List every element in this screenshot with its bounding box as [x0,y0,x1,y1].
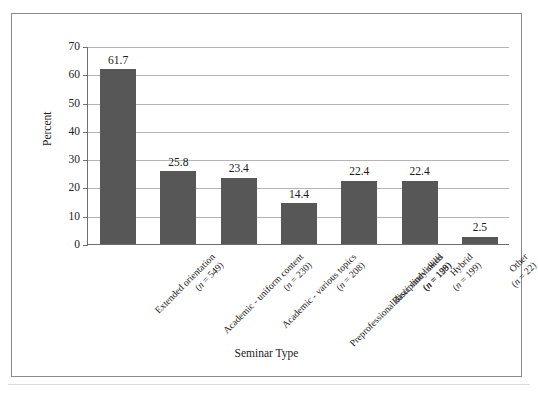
x-axis-category-label: Other(n = 22) [500,251,538,290]
y-axis-tick-label: 60 [69,70,81,82]
bar-value-label: 23.4 [229,163,249,175]
x-axis-category-label: Basic study skills(n = 199) [390,251,455,316]
y-axis-tick-label: 10 [69,211,81,223]
bar-value-label: 61.7 [108,55,128,67]
bar-value-label: 14.4 [289,189,309,201]
y-axis-tick-label: 30 [69,154,81,166]
bar-value-label: 22.4 [410,166,430,178]
figure-frame: Percent 010203040506070 61.725.823.414.4… [11,13,522,377]
bar[interactable]: 2.5 [462,237,498,244]
gridline [88,160,509,161]
y-axis-tick-label: 0 [74,239,80,251]
scan-artifact-line [8,384,530,385]
y-axis-tick-label: 40 [69,126,81,138]
bar[interactable]: 23.4 [221,178,257,244]
bar-value-label: 22.4 [349,166,369,178]
y-axis-tick [83,47,88,48]
y-axis-tick [83,217,88,218]
y-axis-tick [83,104,88,105]
y-axis-tick [83,160,88,161]
bar-value-label: 25.8 [168,157,188,169]
bar[interactable]: 14.4 [281,203,317,244]
y-axis-tick-label: 50 [69,98,81,110]
gridline [88,47,509,48]
bar[interactable]: 25.8 [160,171,196,244]
gridline [88,132,509,133]
x-axis-category-label: Extended orientation(n = 549) [153,251,227,325]
gridline [88,104,509,105]
bar[interactable]: 22.4 [341,181,377,244]
bar[interactable]: 22.4 [402,181,438,244]
x-axis-category-label: Hybrid(n = 199) [441,251,484,294]
y-axis-title: Percent [41,112,53,146]
bar[interactable]: 61.7 [100,69,136,244]
gridline [88,75,509,76]
bar-value-label: 2.5 [473,222,487,234]
y-axis-tick-label: 20 [69,183,81,195]
y-axis-tick [83,188,88,189]
y-axis-tick [83,132,88,133]
plot-area: 010203040506070 61.725.823.414.422.422.4… [87,47,509,245]
x-axis-title: Seminar Type [12,347,521,359]
y-axis-tick [83,75,88,76]
y-axis-tick-label: 70 [69,41,81,53]
y-axis-tick [83,245,88,246]
